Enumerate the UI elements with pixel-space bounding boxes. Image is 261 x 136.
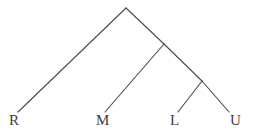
branch-node2-to-node3 bbox=[164, 44, 202, 81]
cladogram-figure: R M L U bbox=[0, 0, 261, 136]
taxon-label-l: L bbox=[170, 113, 179, 128]
taxon-label-m: M bbox=[96, 113, 109, 128]
branch-root-to-R bbox=[18, 8, 126, 112]
taxon-label-r: R bbox=[9, 113, 19, 128]
branch-root-to-node2 bbox=[126, 8, 164, 44]
branch-node3-to-U bbox=[202, 81, 229, 112]
branch-node2-to-M bbox=[105, 44, 164, 112]
cladogram-branches bbox=[0, 0, 261, 136]
taxon-label-u: U bbox=[230, 113, 241, 128]
branch-node3-to-L bbox=[178, 81, 202, 112]
